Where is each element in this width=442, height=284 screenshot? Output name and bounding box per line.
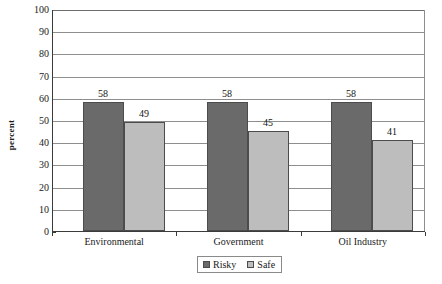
bar-value-label: 49 bbox=[122, 109, 166, 119]
y-axis-tick-label: 20 bbox=[39, 183, 49, 193]
x-axis-category-label: Oil Industry bbox=[301, 236, 425, 248]
bar-chart: percent 1009080706050403020100 584958455… bbox=[0, 0, 442, 284]
y-axis-tick-label: 70 bbox=[39, 72, 49, 82]
y-axis-title: percent bbox=[6, 95, 16, 175]
legend-swatch-icon bbox=[247, 261, 254, 268]
y-axis-tick-label: 50 bbox=[39, 116, 49, 126]
legend-item[interactable]: Risky bbox=[203, 259, 236, 270]
bar-group: 5849 bbox=[53, 10, 177, 231]
x-axis-tick-mark bbox=[176, 232, 177, 236]
legend-label: Risky bbox=[213, 259, 236, 270]
x-axis-tick-mark bbox=[52, 232, 53, 236]
bar-value-label: 45 bbox=[246, 118, 290, 128]
y-axis-tick-label: 80 bbox=[39, 49, 49, 59]
bar-group: 5841 bbox=[301, 10, 425, 231]
bar-value-label: 58 bbox=[329, 89, 373, 99]
bar-groups: 584958455841 bbox=[53, 10, 425, 231]
bar-risky bbox=[83, 102, 124, 231]
bar-value-label: 41 bbox=[370, 127, 414, 137]
y-axis-tick-label: 100 bbox=[34, 5, 49, 15]
y-axis-tick-label: 60 bbox=[39, 94, 49, 104]
x-axis-tick-mark bbox=[425, 232, 426, 236]
bar-risky bbox=[207, 102, 248, 231]
y-axis-tick-label: 0 bbox=[44, 227, 49, 237]
bar-group: 5845 bbox=[177, 10, 301, 231]
x-axis-category-label: Environmental bbox=[52, 236, 176, 248]
y-axis-tick-label: 40 bbox=[39, 138, 49, 148]
bar-safe bbox=[124, 122, 165, 231]
y-axis-tick-label: 30 bbox=[39, 160, 49, 170]
bar-value-label: 58 bbox=[205, 89, 249, 99]
legend-label: Safe bbox=[257, 259, 275, 270]
bar-risky bbox=[331, 102, 372, 231]
x-axis-tick-mark bbox=[301, 232, 302, 236]
y-axis-tick-label: 10 bbox=[39, 205, 49, 215]
legend-item[interactable]: Safe bbox=[247, 259, 275, 270]
bar-safe bbox=[248, 131, 289, 231]
plot-area: 584958455841 bbox=[52, 10, 425, 232]
y-axis-tick-labels: 1009080706050403020100 bbox=[24, 10, 52, 232]
chart-legend: RiskySafe bbox=[197, 256, 282, 273]
x-axis-category-labels: EnvironmentalGovernmentOil Industry bbox=[52, 236, 425, 248]
x-axis-category-label: Government bbox=[176, 236, 300, 248]
bar-value-label: 58 bbox=[81, 89, 125, 99]
y-axis-tick-label: 90 bbox=[39, 27, 49, 37]
legend-swatch-icon bbox=[203, 261, 210, 268]
bar-safe bbox=[372, 140, 413, 231]
